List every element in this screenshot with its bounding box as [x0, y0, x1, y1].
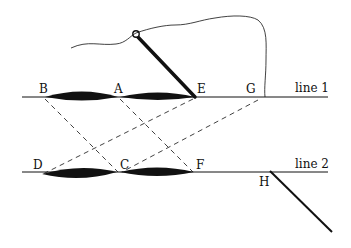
label-d: D	[33, 159, 43, 171]
label-f: F	[196, 159, 204, 171]
thread	[71, 16, 266, 97]
needle	[136, 35, 195, 97]
stitch-d-c	[42, 168, 117, 178]
label-a: A	[114, 83, 123, 95]
needle-h	[270, 171, 332, 232]
label-line-1: line 1	[295, 82, 329, 94]
stitch-a-e	[120, 93, 195, 101]
label-line-2: line 2	[295, 158, 329, 170]
stitch-c-f	[120, 168, 194, 177]
stitch-b-a	[45, 92, 118, 101]
label-g: G	[246, 83, 256, 95]
label-h: H	[259, 176, 269, 188]
dashed-guides	[43, 99, 258, 174]
label-b: B	[39, 83, 48, 95]
label-e: E	[197, 83, 206, 95]
stitch-diagram: B A E G line 1 D C F H line 2	[0, 0, 351, 248]
label-c: C	[120, 159, 129, 171]
diagram-graphic	[0, 0, 351, 248]
